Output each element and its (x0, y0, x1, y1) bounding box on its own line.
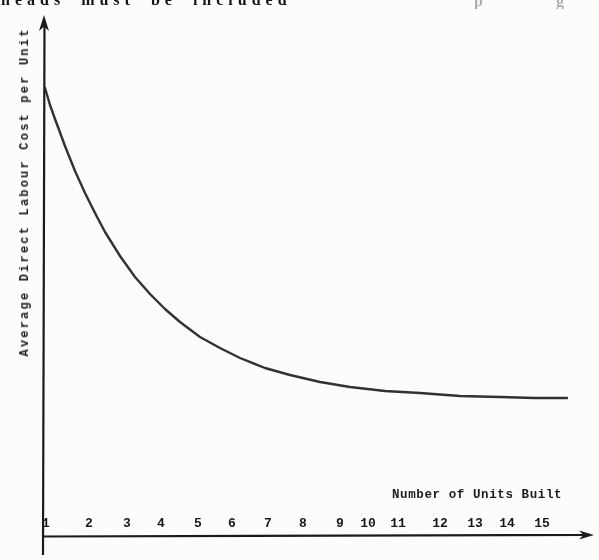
x-tick-label: 6 (228, 516, 236, 531)
x-tick-label: 7 (264, 516, 272, 531)
x-tick-label: 14 (499, 516, 515, 531)
x-tick-label: 11 (390, 516, 406, 531)
x-tick-label: 9 (336, 516, 344, 531)
x-tick-label: 2 (85, 516, 93, 531)
x-tick-label: 12 (432, 516, 448, 531)
x-tick-label: 1 (42, 516, 50, 531)
x-tick-label: 4 (157, 516, 165, 531)
x-tick-label: 5 (194, 516, 202, 531)
y-axis-label: Average Direct Labour Cost per Unit (18, 27, 32, 356)
x-axis-line (42, 535, 586, 537)
x-tick-label: 10 (360, 516, 376, 531)
y-axis-line (43, 26, 45, 555)
chart-canvas (0, 0, 599, 560)
scanned-page: heads must be included p g Average Direc… (0, 0, 599, 560)
x-tick-label: 8 (299, 516, 307, 531)
x-tick-label: 15 (534, 516, 550, 531)
learning-curve-chart: Average Direct Labour Cost per Unit Numb… (0, 0, 599, 560)
x-tick-label: 3 (123, 516, 131, 531)
x-tick-label: 13 (467, 516, 483, 531)
learning-curve-line (45, 88, 567, 398)
x-axis-label: Number of Units Built (392, 488, 562, 502)
